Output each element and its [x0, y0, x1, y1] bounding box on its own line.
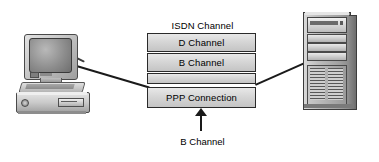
callout-label-b-channel: B Channel: [150, 136, 255, 147]
channel-label-d-channel: D Channel: [179, 37, 225, 48]
isdn-channel-diagram: ISDN Channel D Channel B Channel PPP Con…: [0, 0, 379, 162]
server-base: [304, 104, 354, 108]
isdn-channel-title: ISDN Channel: [150, 20, 255, 31]
server-drive-bay-3: [307, 52, 347, 61]
floppy-drive-slot: [58, 98, 84, 107]
server-drive-bay-1: [307, 34, 347, 43]
server-vent-column-left: [310, 68, 325, 100]
monitor-controls: [40, 73, 52, 76]
server-eject-button: [340, 21, 343, 25]
channel-label-ppp-connection: PPP Connection: [166, 92, 237, 103]
server-drive-bay-2: [307, 43, 347, 52]
channel-box-ppp-connection: PPP Connection: [147, 87, 256, 108]
server-vent-column-right: [328, 68, 343, 100]
channel-box-d-channel: D Channel: [147, 33, 256, 52]
tower-server: [297, 12, 359, 110]
desktop-case-top-edge: [17, 92, 87, 95]
desktop-case-base: [18, 111, 86, 114]
power-led-icon: [21, 99, 29, 107]
server-optical-drive: [307, 17, 347, 33]
keyboard-keys: [25, 84, 74, 89]
server-side-panel: [349, 15, 357, 110]
channel-box-b-channel: B Channel: [147, 53, 256, 72]
monitor-power-button: [30, 72, 39, 78]
monitor-screen: [29, 38, 72, 73]
server-top-edge: [305, 12, 349, 15]
channel-label-b-channel: B Channel: [179, 57, 224, 68]
server-optical-slot: [310, 21, 338, 25]
callout-arrow-up-icon: [195, 108, 207, 116]
workstation-computer: [14, 34, 92, 110]
channel-box-unlabeled-band: [147, 73, 256, 84]
floppy-drive-line: [61, 101, 77, 102]
